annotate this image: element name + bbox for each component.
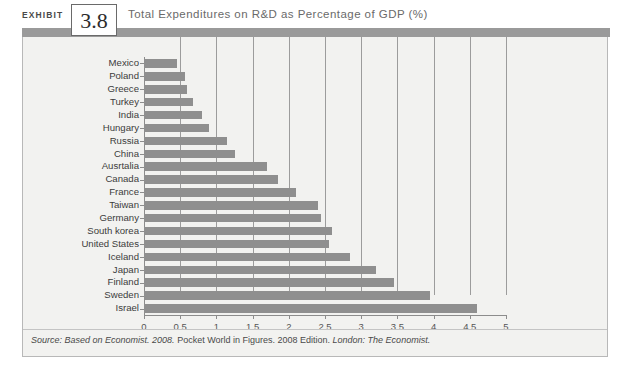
bar xyxy=(144,124,209,133)
bar xyxy=(144,266,376,275)
source-prefix: Source: xyxy=(31,335,62,345)
x-tick-label: 3.5 xyxy=(382,321,412,332)
bar xyxy=(144,72,185,81)
category-label: Ausrtalia xyxy=(23,160,139,171)
y-tick xyxy=(140,296,144,297)
x-tick-label: 4.5 xyxy=(455,321,485,332)
source-italic-two: London: The Economist. xyxy=(333,335,431,345)
y-tick xyxy=(140,180,144,181)
exhibit-number: 3.8 xyxy=(72,5,116,35)
bar xyxy=(144,162,267,171)
exhibit-number-box: 3.8 xyxy=(71,4,117,36)
x-tick-label: 0 xyxy=(129,321,159,332)
y-tick xyxy=(140,257,144,258)
y-tick xyxy=(140,167,144,168)
category-label: India xyxy=(23,109,139,120)
bar xyxy=(144,227,332,236)
source-note: Source: Based on Economist. 2008. Pocket… xyxy=(31,335,430,345)
exhibit-label: EXHIBIT xyxy=(22,10,63,20)
chart-panel: 00.511.522.533.544.55 MexicoPolandGreece… xyxy=(22,37,608,357)
x-tick xyxy=(216,315,217,319)
y-tick xyxy=(140,89,144,90)
bar xyxy=(144,98,193,107)
category-label: Israel xyxy=(23,302,139,313)
x-tick xyxy=(325,315,326,319)
exhibit-title: Total Expenditures on R&D as Percentage … xyxy=(128,8,428,20)
x-tick-label: 1 xyxy=(201,321,231,332)
x-tick-label: 2.5 xyxy=(310,321,340,332)
x-tick xyxy=(397,315,398,319)
category-label: Sweden xyxy=(23,289,139,300)
bar xyxy=(144,111,202,120)
y-tick xyxy=(140,309,144,310)
category-label: Canada xyxy=(23,173,139,184)
y-tick xyxy=(140,231,144,232)
exhibit-figure: EXHIBIT 3.8 Total Expenditures on R&D as… xyxy=(0,0,631,376)
y-tick xyxy=(140,115,144,116)
x-tick-label: 5 xyxy=(491,321,521,332)
bar xyxy=(144,291,430,300)
y-tick xyxy=(140,102,144,103)
category-label: South korea xyxy=(23,225,139,236)
bar xyxy=(144,253,350,262)
gridline xyxy=(361,37,362,295)
bar xyxy=(144,59,177,68)
x-tick xyxy=(253,315,254,319)
category-label: Taiwan xyxy=(23,199,139,210)
category-label: Russia xyxy=(23,135,139,146)
x-tick xyxy=(434,315,435,319)
bar xyxy=(144,175,278,184)
gridline xyxy=(506,37,507,295)
bar xyxy=(144,137,227,146)
category-label: France xyxy=(23,186,139,197)
x-tick-label: 3 xyxy=(346,321,376,332)
x-tick xyxy=(144,315,145,319)
chart-panel-inner: 00.511.522.533.544.55 MexicoPolandGreece… xyxy=(23,37,607,356)
x-tick-label: 0.5 xyxy=(165,321,195,332)
y-tick xyxy=(140,270,144,271)
category-label: Japan xyxy=(23,264,139,275)
bar xyxy=(144,188,296,197)
bar xyxy=(144,85,187,94)
category-label: Turkey xyxy=(23,96,139,107)
category-label: United States xyxy=(23,238,139,249)
x-tick xyxy=(470,315,471,319)
source-italic-one: Based on Economist. 2008. xyxy=(65,335,175,345)
y-tick xyxy=(140,141,144,142)
gridline xyxy=(434,37,435,295)
y-tick xyxy=(140,218,144,219)
y-tick xyxy=(140,76,144,77)
x-tick-label: 1.5 xyxy=(238,321,268,332)
x-tick xyxy=(180,315,181,319)
y-tick xyxy=(140,283,144,284)
bar xyxy=(144,278,394,287)
category-label: Iceland xyxy=(23,251,139,262)
y-tick xyxy=(140,128,144,129)
bar xyxy=(144,150,235,159)
y-tick xyxy=(140,244,144,245)
x-tick-label: 2 xyxy=(274,321,304,332)
x-tick-label: 4 xyxy=(419,321,449,332)
category-label: Greece xyxy=(23,83,139,94)
y-tick xyxy=(140,192,144,193)
x-tick xyxy=(506,315,507,319)
category-label: Hungary xyxy=(23,122,139,133)
gridline xyxy=(470,37,471,295)
category-label: Poland xyxy=(23,70,139,81)
source-roman-one: Pocket World in Figures. 2008 Edition. xyxy=(177,335,330,345)
bar xyxy=(144,201,318,210)
source-divider xyxy=(23,329,607,330)
category-label: Finland xyxy=(23,276,139,287)
y-tick xyxy=(140,205,144,206)
bar xyxy=(144,304,477,313)
bar xyxy=(144,240,329,249)
x-tick xyxy=(289,315,290,319)
category-label: China xyxy=(23,148,139,159)
x-tick xyxy=(361,315,362,319)
category-label: Mexico xyxy=(23,57,139,68)
y-tick xyxy=(140,154,144,155)
bar xyxy=(144,214,321,223)
category-label: Germany xyxy=(23,212,139,223)
gridline xyxy=(397,37,398,295)
y-tick xyxy=(140,63,144,64)
